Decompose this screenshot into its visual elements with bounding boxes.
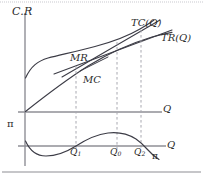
q1-tick-label: Q1 [70,148,81,157]
total-cost-curve-label: TC(Q) [131,18,161,28]
q2-tick-label: Q2 [134,148,145,157]
q2-subscript: 2 [141,150,145,157]
marginal-cost-label: MC [83,75,101,85]
total-revenue-curve [26,32,173,111]
q0-tick-label: Q0 [110,148,121,157]
total-cost-curve [26,20,155,78]
q1-subscript: 1 [77,150,81,157]
figure-canvas [0,0,203,180]
q0-subscript: 0 [117,150,121,157]
quantity-axis-top-label: Q [163,104,171,114]
marginal-revenue-label: MR [70,53,88,63]
profit-axis-label: π [7,119,14,129]
profit-curve-label: π [152,152,158,161]
economics-figure: C.R TC(Q) TR(Q) MR MC Q π Q1 Q0 Q2 π Q [0,0,203,180]
vertical-axis-label: C.R [12,6,32,17]
marginal-cost-line [62,20,160,77]
quantity-axis-bottom-label: Q [167,140,175,150]
total-revenue-curve-label: TR(Q) [161,33,191,43]
